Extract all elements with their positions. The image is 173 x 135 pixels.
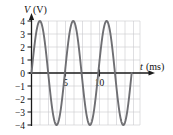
y-tick-label: 3	[20, 30, 25, 40]
x-axis-title: t	[140, 61, 143, 72]
x-axis-unit: (ms)	[146, 61, 164, 73]
y-tick-label: −3	[15, 108, 25, 118]
y-tick-label: −4	[15, 121, 25, 131]
y-tick-label: 0	[20, 69, 25, 79]
y-tick-label: −1	[15, 82, 25, 92]
y-tick-label: −2	[15, 95, 25, 105]
y-tick-label: 4	[20, 17, 25, 27]
voltage-waveform-figure: 4 3 2 1 0 −1 −2 −3 −4 5 10 V (V) t (ms)	[0, 0, 173, 135]
y-tick-label: 1	[20, 56, 25, 66]
y-tick-label: 2	[20, 43, 25, 53]
y-axis-unit: (V)	[33, 4, 47, 16]
chart-canvas: 4 3 2 1 0 −1 −2 −3 −4 5 10 V (V) t (ms)	[0, 0, 173, 135]
